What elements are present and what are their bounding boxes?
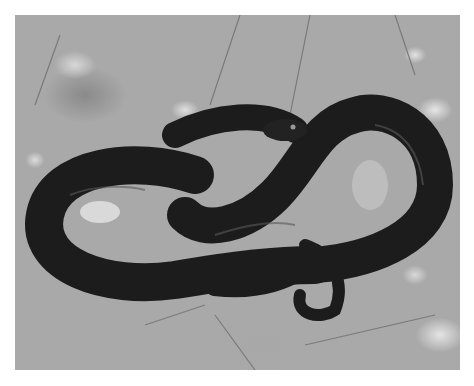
snake-illustration xyxy=(15,15,460,370)
snake-photo xyxy=(15,15,460,370)
